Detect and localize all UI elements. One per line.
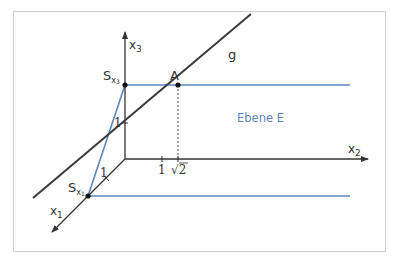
point-s-x1 — [85, 193, 90, 198]
x1-tick-label: 1 — [100, 166, 108, 180]
line-g — [33, 14, 251, 198]
x3-tick-label: 1 — [114, 116, 122, 130]
x2-axis-label: x2 — [348, 142, 361, 158]
diagram-canvas: x3 x2 x1 1 1 √2 1 Sx3 A Sx1 g Ebene E — [0, 0, 399, 268]
point-label-s-x1: Sx1 — [68, 180, 85, 197]
x1-axis-label: x1 — [50, 204, 63, 220]
x3-axis-label: x3 — [129, 38, 142, 54]
point-label-a: A — [170, 68, 179, 83]
x2-tick-label-sqrt2: √2 — [171, 163, 186, 177]
point-a — [175, 82, 180, 87]
line-g-label: g — [228, 47, 236, 62]
point-s-x3 — [122, 82, 127, 87]
plane-e-label: Ebene E — [237, 111, 284, 125]
x2-tick-label-1: 1 — [158, 163, 166, 177]
point-label-s-x3: Sx3 — [103, 68, 120, 85]
